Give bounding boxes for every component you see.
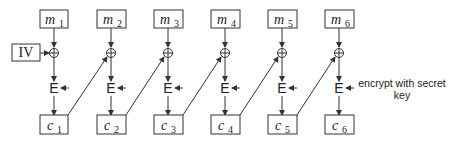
encrypt-op-1: E (49, 80, 58, 96)
plaintext-sub-4: 4 (231, 18, 236, 29)
ciphertext-sub-4: 4 (228, 124, 233, 135)
chain-arrow-5 (297, 57, 335, 115)
xor-icon-1 (50, 49, 59, 58)
iv-node: IV (12, 44, 49, 61)
chain-arrow-3 (183, 57, 221, 115)
iv-label: IV (19, 45, 34, 60)
encrypt-op-2: E (106, 80, 115, 96)
plaintext-label-4: m (217, 12, 227, 27)
ciphertext-sub-1: 1 (57, 124, 62, 135)
ciphertext-label-3: c (161, 118, 168, 133)
ciphertext-label-2: c (104, 118, 111, 133)
encrypt-op-5: E (277, 80, 286, 96)
encrypt-op-4: E (220, 80, 229, 96)
chain-arrow-2 (126, 57, 164, 115)
chain-arrow-4 (240, 57, 278, 115)
block-6: m 6 E c 6 (325, 10, 354, 135)
encrypt-op-3: E (163, 80, 172, 96)
ciphertext-sub-2: 2 (114, 124, 119, 135)
ciphertext-sub-3: 3 (171, 124, 176, 135)
plaintext-label-3: m (160, 12, 170, 27)
cbc-diagram: IV m 1 E c 1 m 2 E (0, 0, 462, 144)
plaintext-sub-6: 6 (345, 18, 350, 29)
ciphertext-sub-6: 6 (342, 124, 347, 135)
plaintext-sub-5: 5 (288, 18, 293, 29)
plaintext-label-2: m (103, 12, 113, 27)
xor-icon-6 (335, 49, 344, 58)
xor-icon-5 (278, 49, 287, 58)
key-note-line1: encrypt with secret (358, 77, 446, 89)
ciphertext-label-1: c (47, 118, 54, 133)
ciphertext-box-1 (40, 115, 68, 134)
chain-arrow-1 (68, 57, 107, 115)
plaintext-sub-1: 1 (59, 18, 64, 29)
plaintext-label-6: m (331, 12, 341, 27)
xor-icon-4 (221, 49, 230, 58)
key-note-line2: key (394, 89, 411, 101)
plaintext-sub-2: 2 (117, 18, 122, 29)
ciphertext-label-6: c (332, 118, 339, 133)
plaintext-sub-3: 3 (174, 18, 179, 29)
encrypt-op-6: E (334, 80, 343, 96)
xor-icon-2 (107, 49, 116, 58)
plaintext-label-5: m (274, 12, 284, 27)
plaintext-label-1: m (45, 12, 55, 27)
ciphertext-label-4: c (218, 118, 225, 133)
ciphertext-sub-5: 5 (285, 124, 290, 135)
xor-icon-3 (164, 49, 173, 58)
ciphertext-label-5: c (275, 118, 282, 133)
